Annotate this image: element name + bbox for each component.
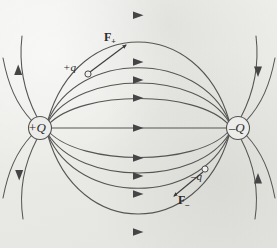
negative-test-charge-circle xyxy=(202,166,208,172)
field-line-arc-4 xyxy=(49,99,228,125)
field-direction-arrowheads xyxy=(14,12,262,236)
exterior-line-lower-left-outer xyxy=(3,135,32,198)
field-line-arc-6 xyxy=(48,134,229,173)
positive-test-charge-circle xyxy=(85,71,91,77)
arrowhead-interior-8 xyxy=(133,190,144,198)
arrowhead-exterior-lower-right xyxy=(254,173,262,184)
electric-field-diagram: +Q –Q +q –q F+ F– xyxy=(0,0,277,248)
field-line-arc-3 xyxy=(48,83,229,122)
exterior-line-lower-right xyxy=(241,139,257,219)
exterior-line-lower-left xyxy=(21,139,37,219)
arrowhead-exterior-upper-left xyxy=(14,65,22,76)
exterior-line-lower-right-outer xyxy=(246,135,275,198)
arrowhead-interior-9 xyxy=(133,228,144,236)
positive-charge-circle xyxy=(29,117,52,140)
arrowhead-interior-2 xyxy=(133,58,144,66)
positive-force-vector xyxy=(90,45,126,72)
arrowhead-interior-5 xyxy=(133,124,144,132)
negative-charge-circle xyxy=(227,117,250,140)
field-line-arc-7 xyxy=(48,135,229,188)
exterior-line-upper-left xyxy=(21,36,37,117)
arrowhead-interior-6 xyxy=(133,154,144,162)
field-line-canvas xyxy=(0,0,277,248)
arrowhead-interior-4 xyxy=(133,94,144,102)
arrowhead-exterior-lower-left xyxy=(15,170,23,181)
negative-force-vector xyxy=(174,172,203,196)
arrowhead-interior-1 xyxy=(133,12,144,20)
field-line-arc-2 xyxy=(48,68,229,121)
field-line-arc-5 xyxy=(49,132,228,158)
exterior-line-upper-right xyxy=(241,36,257,117)
